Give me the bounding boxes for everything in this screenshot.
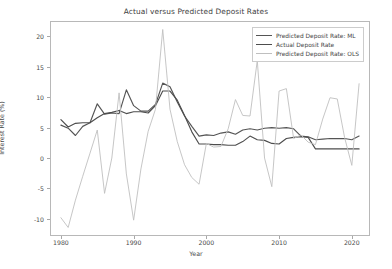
- x-tick-mark: [352, 236, 353, 239]
- legend-swatch-icon: [256, 35, 272, 36]
- x-tick-label: 1980: [53, 239, 69, 246]
- y-tick-label: 10: [0, 94, 44, 101]
- y-tick-label: 20: [0, 33, 44, 40]
- legend-swatch-icon: [256, 44, 272, 45]
- x-tick-mark: [206, 236, 207, 239]
- y-tick-label: -5: [0, 185, 44, 192]
- legend-item[interactable]: Actual Deposit Rate: [256, 40, 359, 49]
- chart-legend: Predicted Deposit Rate: MLActual Deposit…: [252, 27, 364, 62]
- legend-swatch-icon: [256, 53, 272, 54]
- legend-item[interactable]: Predicted Deposit Rate: OLS: [256, 49, 359, 58]
- series-line: [61, 83, 359, 140]
- y-tick-label: -10: [0, 215, 44, 222]
- x-axis-label: Year: [0, 250, 392, 257]
- legend-label: Predicted Deposit Rate: ML: [276, 33, 356, 39]
- x-tick-mark: [279, 236, 280, 239]
- x-tick-label: 2010: [271, 239, 287, 246]
- x-tick-label: 2000: [198, 239, 214, 246]
- chart-figure: Actual versus Predicted Deposit Rates 20…: [0, 0, 392, 269]
- y-tick-label: 15: [0, 63, 44, 70]
- legend-label: Actual Deposit Rate: [276, 42, 334, 48]
- y-tick-mark: [47, 36, 50, 37]
- y-tick-mark: [47, 128, 50, 129]
- x-tick-label: 2020: [344, 239, 360, 246]
- x-tick-mark: [61, 236, 62, 239]
- y-tick-label: 0: [0, 155, 44, 162]
- x-tick-mark: [134, 236, 135, 239]
- chart-title: Actual versus Predicted Deposit Rates: [0, 7, 392, 16]
- y-tick-mark: [47, 219, 50, 220]
- x-tick-label: 1990: [126, 239, 142, 246]
- legend-label: Predicted Deposit Rate: OLS: [276, 51, 359, 57]
- y-tick-mark: [47, 67, 50, 68]
- y-tick-mark: [47, 158, 50, 159]
- series-line: [61, 91, 359, 149]
- y-axis-label: Interest Rate (%): [0, 101, 5, 155]
- y-tick-label: 5: [0, 124, 44, 131]
- legend-item[interactable]: Predicted Deposit Rate: ML: [256, 31, 359, 40]
- y-tick-mark: [47, 188, 50, 189]
- y-tick-mark: [47, 97, 50, 98]
